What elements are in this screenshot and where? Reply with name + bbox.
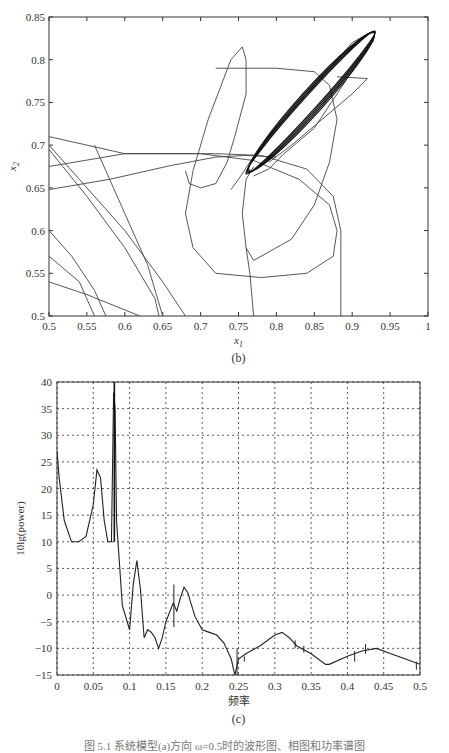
y-tick-label: 0.5	[31, 310, 45, 322]
plot-frame	[49, 17, 428, 316]
x-tick-label: 0.85	[305, 320, 325, 332]
y-tick-label: −5	[40, 616, 52, 628]
y-tick-label: 20	[41, 483, 53, 495]
y-tick-label: 0.6	[31, 225, 45, 237]
phase-plot: 0.50.550.60.650.70.750.80.850.90.9510.50…	[6, 11, 431, 365]
y-tick-label: 0.75	[26, 96, 46, 108]
x-tick-label: 0.8	[270, 320, 284, 332]
y-tick-label: 0	[47, 589, 53, 601]
x-tick-label: 0.55	[77, 320, 97, 332]
y-tick-label: −15	[35, 669, 53, 681]
panel-label-b: (b)	[232, 351, 246, 365]
x-tick-label: 0.3	[268, 680, 282, 692]
x-tick-label: 0.45	[374, 680, 394, 692]
y-tick-label: 25	[41, 456, 53, 468]
x-tick-label: 0.15	[156, 680, 176, 692]
y-tick-label: 0.7	[31, 139, 45, 151]
y-tick-label: 10	[41, 536, 53, 548]
y-tick-label: 0.55	[26, 267, 46, 279]
y-tick-label: 5	[47, 562, 53, 574]
x-tick-label: 0.4	[341, 680, 355, 692]
x-tick-label: 0.65	[153, 320, 173, 332]
y-axis-label: x2	[6, 162, 21, 172]
y-tick-label: −10	[35, 642, 53, 654]
x-axis-label: x1	[233, 334, 243, 349]
y-tick-label: 30	[41, 429, 53, 441]
y-tick-label: 40	[41, 376, 53, 388]
x-tick-label: 0.5	[413, 680, 427, 692]
x-tick-label: 0.05	[84, 680, 104, 692]
y-tick-label: 0.85	[26, 11, 46, 23]
x-tick-label: 0.9	[345, 320, 359, 332]
x-tick-label: 0.75	[229, 320, 249, 332]
x-tick-label: 0.2	[195, 680, 209, 692]
y-tick-label: 15	[41, 509, 53, 521]
x-tick-label: 0.6	[118, 320, 132, 332]
y-tick-label: 35	[41, 403, 53, 415]
y-tick-label: 0.65	[26, 182, 46, 194]
y-axis-label: 10lg(power)	[14, 501, 27, 556]
x-tick-label: 0.7	[194, 320, 208, 332]
spectrum-plot: 00.050.10.150.20.250.30.350.40.450.5−15−…	[14, 376, 427, 726]
x-tick-label: 0.25	[229, 680, 249, 692]
trajectory	[49, 25, 383, 316]
x-tick-label: 0.35	[301, 680, 321, 692]
x-tick-label: 0.1	[123, 680, 137, 692]
x-tick-label: 0	[54, 680, 60, 692]
figure-caption: 图 5.1 系统模型(a)方向 ω=0.5时的波形图、相图和功率谱图	[0, 737, 449, 753]
x-tick-label: 0.95	[380, 320, 400, 332]
x-tick-label: 1	[425, 320, 431, 332]
y-tick-label: 0.8	[31, 54, 45, 66]
x-axis-label: 频率	[228, 694, 250, 707]
panel-label-c: (c)	[232, 712, 245, 726]
